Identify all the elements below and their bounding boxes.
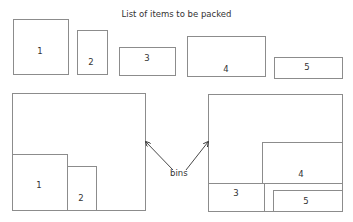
arrow-to-right-bin — [186, 142, 208, 170]
arrows — [0, 0, 353, 222]
bins-label: bins — [170, 168, 188, 178]
arrow-to-left-bin — [146, 142, 173, 170]
